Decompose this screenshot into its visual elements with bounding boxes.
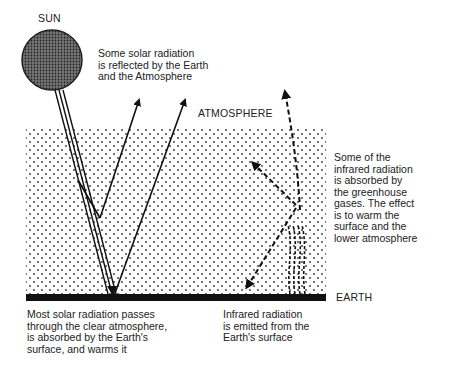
reflected-annotation: Some solar radiation is reflected by the… bbox=[98, 48, 208, 83]
absorbed-infrared-annotation: Some of the infrared radiation is absorb… bbox=[334, 152, 417, 244]
atmosphere-label: ATMOSPHERE bbox=[198, 108, 273, 120]
earth-surface bbox=[26, 294, 326, 301]
greenhouse-diagram: SUN Some solar radiation is reflected by… bbox=[0, 0, 452, 372]
sun-icon bbox=[22, 30, 82, 90]
sun-label: SUN bbox=[38, 13, 61, 25]
infrared-emitted-annotation: Infrared radiation is emitted from the E… bbox=[223, 309, 309, 344]
solar-passes-annotation: Most solar radiation passes through the … bbox=[27, 309, 167, 355]
earth-label: EARTH bbox=[336, 292, 372, 304]
